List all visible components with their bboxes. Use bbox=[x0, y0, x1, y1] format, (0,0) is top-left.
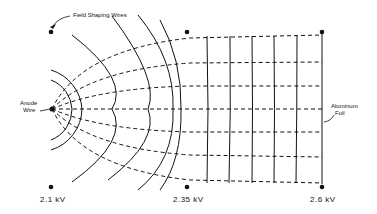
field-lines bbox=[52, 35, 322, 183]
voltage-label-right: 2.6 kV bbox=[310, 195, 336, 204]
anode-label-line1: Anode bbox=[20, 100, 37, 107]
arrowhead-icon bbox=[50, 24, 56, 29]
field-map-diagram bbox=[0, 0, 377, 214]
voltage-label-left: 2.1 kV bbox=[40, 195, 66, 204]
foil-label-line1: Aluminum bbox=[331, 103, 358, 110]
anode-label-line2: Wire bbox=[23, 107, 35, 114]
foil-label-line2: Foil bbox=[335, 110, 345, 117]
voltage-label-middle: 2.35 kV bbox=[173, 195, 204, 204]
anode-wire-dot bbox=[50, 107, 55, 112]
field-shaping-wires-label: Field Shaping Wires bbox=[73, 12, 127, 19]
equipotential-lines bbox=[51, 15, 322, 190]
